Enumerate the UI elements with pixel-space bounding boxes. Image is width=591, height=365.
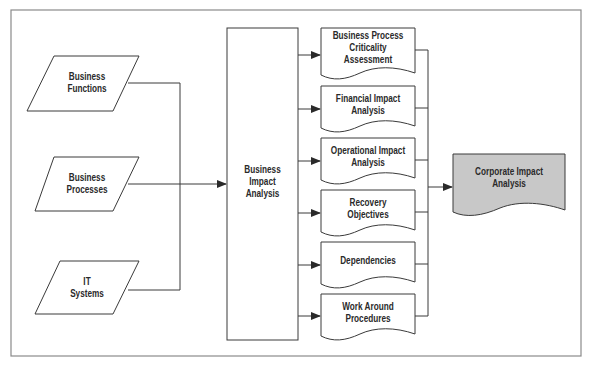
output-label-corporate-impact: Corporate Impact Analysis: [463, 166, 555, 190]
component-label-2: Financial Impact Analysis: [329, 93, 406, 117]
component-label-6: Work Around Procedures: [329, 301, 406, 325]
input-bracket-connector: [128, 83, 180, 290]
component-label-1: Business Process Criticality Assessment: [329, 30, 406, 66]
component-label-3: Operational Impact Analysis: [329, 145, 406, 169]
input-label-it-systems: IT Systems: [58, 276, 115, 300]
component-label-5: Dependencies: [329, 255, 406, 267]
input-label-business-functions: Business Functions: [58, 71, 115, 95]
component-label-4: Recovery Objectives: [329, 197, 406, 221]
input-label-business-processes: Business Processes: [58, 172, 115, 196]
bia-label: Business Impact Analysis: [233, 164, 291, 200]
